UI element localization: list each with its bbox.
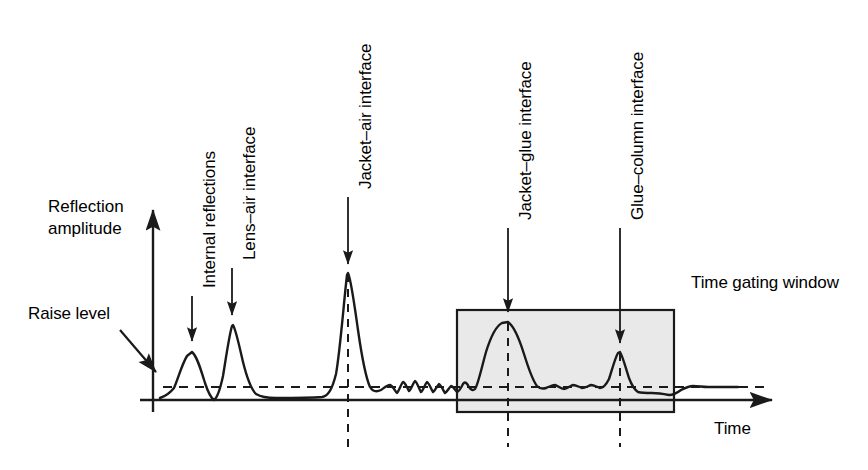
peak-label-jacket-air-interface: Jacket–air interface (355, 44, 376, 189)
peak-label-lens-air-interface: Lens–air interface (239, 127, 260, 260)
raise-level-label: Raise level (28, 303, 110, 324)
time-gating-window-box (457, 310, 674, 412)
figure-root: Reflection amplitude Raise level Time Ti… (0, 0, 868, 470)
x-axis-label: Time (714, 418, 751, 439)
peak-label-internal-reflections: Internal reflections (199, 151, 220, 288)
y-axis-label: Reflection amplitude (48, 196, 124, 240)
time-gating-window-label: Time gating window (691, 272, 839, 293)
waveform-plot (0, 0, 868, 470)
pointer-arrow-raise-level (120, 330, 156, 372)
peak-label-glue-column-interface: Glue–column interface (627, 52, 648, 220)
peak-label-jacket-glue-interface: Jacket–glue interface (515, 61, 536, 220)
